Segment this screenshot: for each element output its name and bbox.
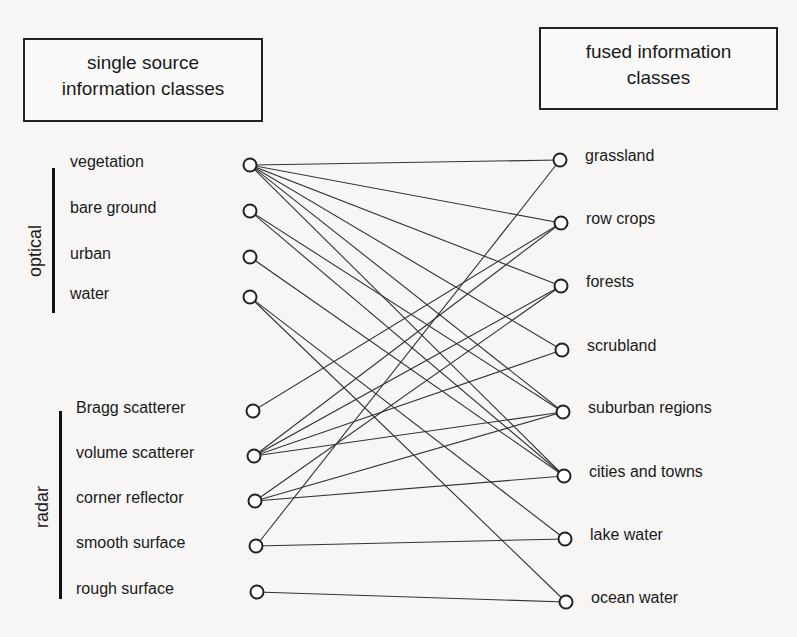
source-label-water: water: [70, 285, 109, 303]
source-node-corner: [249, 495, 262, 508]
edge-vegetation-to-cities: [250, 165, 564, 476]
edge-volume-to-scrubland: [254, 350, 562, 456]
edge-bragg-to-row_crops: [253, 223, 561, 411]
fused-node-row_crops: [555, 217, 568, 230]
source-label-bragg: Bragg scatterer: [76, 399, 185, 417]
source-node-vegetation: [244, 159, 257, 172]
fused-node-cities: [558, 470, 571, 483]
fused-label-cities: cities and towns: [589, 463, 703, 481]
source-label-rough: rough surface: [76, 580, 174, 598]
source-node-smooth: [250, 540, 263, 553]
fused-label-forests: forests: [586, 273, 634, 291]
edge-corner-to-forests: [255, 286, 561, 501]
fused-label-ocean: ocean water: [591, 589, 678, 607]
edge-urban-to-cities: [250, 257, 564, 476]
edge-vegetation-to-grassland: [250, 160, 560, 165]
source-label-corner: corner reflector: [76, 489, 184, 507]
source-node-urban: [244, 251, 257, 264]
edge-vegetation-to-row_crops: [250, 165, 561, 223]
fused-node-lake: [559, 533, 572, 546]
fused-node-grassland: [554, 154, 567, 167]
fused-label-lake: lake water: [590, 526, 663, 544]
source-node-bragg: [247, 405, 260, 418]
fused-node-scrubland: [556, 344, 569, 357]
edge-smooth-to-lake: [256, 539, 565, 546]
fused-node-ocean: [560, 596, 573, 609]
fused-label-suburban: suburban regions: [588, 399, 712, 417]
source-node-water: [244, 291, 257, 304]
fused-label-grassland: grassland: [585, 147, 654, 165]
edge-vegetation-to-forests: [250, 165, 561, 286]
fused-label-scrubland: scrubland: [587, 337, 656, 355]
source-node-volume: [248, 450, 261, 463]
fused-label-row_crops: row crops: [586, 210, 655, 228]
edge-corner-to-suburban: [255, 412, 563, 501]
source-label-volume: volume scatterer: [76, 444, 194, 462]
fused-node-forests: [555, 280, 568, 293]
edge-layer: [250, 160, 566, 602]
source-label-urban: urban: [70, 245, 111, 263]
edge-bare_ground-to-cities: [250, 211, 564, 476]
edge-rough-to-ocean: [257, 592, 566, 602]
source-label-bare_ground: bare ground: [70, 199, 156, 217]
source-label-smooth: smooth surface: [76, 534, 185, 552]
source-label-vegetation: vegetation: [70, 153, 144, 171]
edge-vegetation-to-suburban: [250, 165, 563, 412]
fused-node-suburban: [557, 406, 570, 419]
source-node-rough: [251, 586, 264, 599]
source-node-bare_ground: [244, 205, 257, 218]
